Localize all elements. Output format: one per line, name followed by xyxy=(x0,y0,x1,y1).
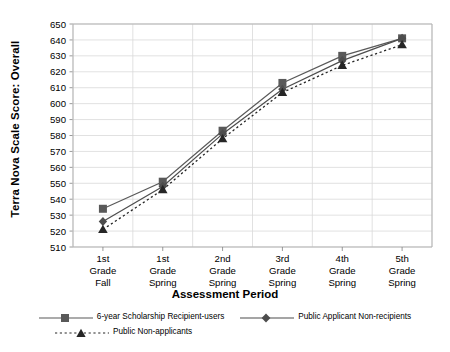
svg-text:Fall: Fall xyxy=(95,277,110,288)
svg-text:Spring: Spring xyxy=(328,277,356,288)
legend-label-scholarship-recipient-users: 6-year Scholarship Recipient-users xyxy=(97,313,224,321)
legend-row-1: 6-year Scholarship Recipient-users Publi… xyxy=(0,310,450,325)
svg-text:Grade: Grade xyxy=(389,265,416,276)
svg-text:Grade: Grade xyxy=(209,265,236,276)
x-axis-tick-label: 4thGradeSpring xyxy=(328,253,356,288)
legend-label-public-applicant-non-recipients: Public Applicant Non-recipients xyxy=(298,313,411,321)
svg-text:Grade: Grade xyxy=(90,265,117,276)
x-axis-tick-label: 3rdGradeSpring xyxy=(269,253,297,288)
y-axis-title-container: Terra Nova Scale Score: Overall xyxy=(0,0,30,258)
x-axis-tick-label: 5thGradeSpring xyxy=(388,253,416,288)
y-axis-tick-label: 530 xyxy=(50,210,66,221)
y-axis-tick-label: 610 xyxy=(50,82,66,93)
svg-text:Spring: Spring xyxy=(388,277,416,288)
x-axis-tick-label: 2ndGradeSpring xyxy=(209,253,237,288)
legend-item-scholarship-recipient-users: 6-year Scholarship Recipient-users xyxy=(39,313,224,323)
legend-label-public-non-applicants: Public Non-applicants xyxy=(113,328,192,336)
legend-key-triangle-dotted xyxy=(55,328,109,338)
y-axis-tick-label: 570 xyxy=(50,146,66,157)
y-axis-tick-label: 630 xyxy=(50,50,66,61)
legend-item-public-applicant-non-recipients: Public Applicant Non-recipients xyxy=(240,313,411,323)
chart-legend: 6-year Scholarship Recipient-users Publi… xyxy=(0,310,450,340)
y-axis-tick-label: 650 xyxy=(50,19,66,30)
legend-key-diamond-solid xyxy=(240,313,294,323)
data-point-marker xyxy=(98,225,108,233)
x-axis-tick-label: 1stGradeFall xyxy=(90,253,117,288)
x-axis-title: Assessment Period xyxy=(0,288,450,300)
data-point-marker xyxy=(99,205,107,213)
legend-key-square-solid xyxy=(39,313,93,323)
svg-text:5th: 5th xyxy=(395,253,408,264)
y-axis-tick-label: 640 xyxy=(50,35,66,46)
svg-text:Grade: Grade xyxy=(329,265,356,276)
legend-row-2: Public Non-applicants xyxy=(0,325,450,340)
svg-text:Grade: Grade xyxy=(269,265,296,276)
svg-text:3rd: 3rd xyxy=(275,253,289,264)
svg-text:1st: 1st xyxy=(156,253,169,264)
y-axis-title: Terra Nova Scale Score: Overall xyxy=(9,41,21,218)
y-axis-tick-label: 540 xyxy=(50,194,66,205)
svg-text:Spring: Spring xyxy=(269,277,297,288)
y-axis-tick-label: 580 xyxy=(50,130,66,141)
y-axis-tick-label: 590 xyxy=(50,114,66,125)
svg-text:Grade: Grade xyxy=(149,265,176,276)
svg-text:Spring: Spring xyxy=(209,277,237,288)
x-axis-tick-label: 1stGradeSpring xyxy=(149,253,177,288)
chart-figure: Terra Nova Scale Score: Overall 51052053… xyxy=(0,0,450,352)
y-axis-tick-label: 620 xyxy=(50,66,66,77)
y-axis-tick-label: 550 xyxy=(50,178,66,189)
svg-text:1st: 1st xyxy=(97,253,110,264)
svg-text:4th: 4th xyxy=(336,253,349,264)
svg-text:2nd: 2nd xyxy=(215,253,231,264)
line-chart-plot: 5105205305405505605705805906006106206306… xyxy=(0,0,450,290)
svg-text:Spring: Spring xyxy=(149,277,177,288)
y-axis-tick-label: 510 xyxy=(50,242,66,253)
legend-item-public-non-applicants: Public Non-applicants xyxy=(55,328,192,338)
y-axis-tick-label: 520 xyxy=(50,226,66,237)
y-axis-tick-label: 600 xyxy=(50,98,66,109)
y-axis-tick-label: 560 xyxy=(50,162,66,173)
